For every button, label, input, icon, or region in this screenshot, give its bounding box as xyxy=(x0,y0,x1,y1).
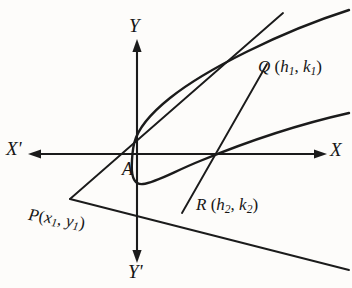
x-axis-left-arrowhead xyxy=(28,149,41,158)
vertex-label-a: A xyxy=(122,160,133,178)
point-label-r-letter: R xyxy=(196,195,206,214)
point-label-q-letter: Q xyxy=(258,57,270,76)
y-axis-up-arrowhead xyxy=(132,39,141,52)
point-label-r-comma: , xyxy=(231,195,240,214)
x-axis-label: X xyxy=(330,140,342,159)
point-label-r: R (h2, k2) xyxy=(196,196,258,215)
point-label-r-x: h xyxy=(216,195,225,214)
point-label-q: Q (h1, k1) xyxy=(258,58,322,77)
y-axis-negative-label: Y' xyxy=(128,262,143,281)
y-axis-label: Y xyxy=(129,16,140,35)
parabola-curve xyxy=(132,10,349,184)
point-label-q-x: h xyxy=(280,57,289,76)
point-label-r-close-paren: ) xyxy=(252,195,258,214)
x-axis xyxy=(28,149,327,158)
point-label-q-comma: , xyxy=(294,57,303,76)
parabola-tangents-figure xyxy=(0,0,352,288)
chord-of-contact-qr xyxy=(182,64,267,213)
point-label-q-y: k xyxy=(303,57,311,76)
point-label-r-y: k xyxy=(239,195,247,214)
point-label-q-close-paren: ) xyxy=(316,57,322,76)
x-axis-negative-label: X' xyxy=(6,139,22,158)
x-axis-right-arrowhead xyxy=(314,149,327,158)
